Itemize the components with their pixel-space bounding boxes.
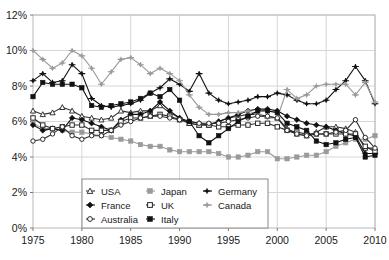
legend-label: Germany: [218, 186, 257, 197]
data-point-marker: [265, 109, 269, 113]
data-point-marker: [129, 119, 133, 123]
data-point-marker: [373, 153, 377, 157]
data-point-marker: [60, 125, 64, 129]
x-tick-label: 2000: [266, 234, 290, 246]
data-point-marker: [129, 139, 133, 143]
data-point-marker: [99, 134, 103, 138]
data-point-marker: [70, 123, 74, 127]
data-point-marker: [168, 148, 172, 152]
data-point-marker: [324, 132, 328, 136]
data-point-marker: [41, 80, 45, 84]
data-point-marker: [246, 114, 250, 118]
data-point-marker: [334, 130, 338, 134]
x-tick-label: 2005: [314, 234, 338, 246]
legend-label: France: [101, 200, 131, 211]
data-point-marker: [60, 82, 64, 86]
data-point-marker: [216, 151, 220, 155]
data-point-marker: [207, 149, 211, 153]
x-tick-label: 2010: [363, 234, 387, 246]
data-point-marker: [197, 121, 201, 125]
data-point-marker: [89, 134, 93, 138]
data-point-marker: [295, 125, 299, 129]
data-point-marker: [148, 144, 152, 148]
y-tick-label: 0%: [12, 222, 27, 234]
data-point-marker: [304, 134, 308, 138]
legend-label: USA: [101, 186, 121, 197]
x-tick-label: 1985: [119, 234, 143, 246]
data-point-marker: [41, 123, 45, 127]
data-point-marker: [324, 149, 328, 153]
data-point-marker: [70, 134, 74, 138]
data-point-marker: [304, 128, 308, 132]
data-point-marker: [256, 121, 260, 125]
data-point-marker: [265, 121, 269, 125]
data-point-marker: [119, 123, 123, 127]
y-tick-label: 4%: [12, 151, 27, 163]
data-point-marker: [226, 119, 230, 123]
data-point-marker: [265, 114, 269, 118]
chart-canvas: 0%2%4%6%8%10%12% 19751980198519901995200…: [0, 0, 389, 260]
data-point-marker: [187, 149, 191, 153]
data-point-marker: [265, 149, 269, 153]
y-axis-ticks: 0%2%4%6%8%10%12%: [6, 9, 33, 234]
data-point-marker: [207, 121, 211, 125]
data-point-marker: [314, 132, 318, 136]
data-point-marker: [129, 100, 133, 104]
x-axis-ticks: 19751980198519901995200020052010: [21, 228, 387, 246]
data-point-marker: [148, 114, 152, 118]
data-point-marker: [363, 135, 367, 139]
data-point-marker: [80, 137, 84, 141]
data-point-marker: [216, 121, 220, 125]
y-tick-label: 2%: [12, 186, 27, 198]
data-point-marker: [285, 128, 289, 132]
data-point-marker: [80, 130, 84, 134]
data-point-marker: [109, 103, 113, 107]
data-point-marker: [246, 123, 250, 127]
data-point-marker: [158, 144, 162, 148]
legend-label: Australia: [101, 214, 139, 225]
legend-label: UK: [161, 200, 175, 211]
data-point-marker: [41, 137, 45, 141]
data-point-marker: [148, 91, 152, 95]
data-point-marker: [80, 86, 84, 90]
data-point-marker: [373, 146, 377, 150]
legend-label: Japan: [161, 186, 187, 197]
data-point-marker: [168, 116, 172, 120]
data-point-marker: [295, 132, 299, 136]
data-point-marker: [177, 118, 181, 122]
data-point-marker: [353, 118, 357, 122]
data-point-marker: [31, 94, 35, 98]
data-point-marker: [304, 153, 308, 157]
data-point-marker: [31, 139, 35, 143]
data-point-marker: [158, 114, 162, 118]
data-point-marker: [31, 116, 35, 120]
data-point-marker: [285, 157, 289, 161]
data-point-marker: [148, 217, 153, 222]
data-point-marker: [119, 137, 123, 141]
data-point-marker: [275, 110, 279, 114]
chart-legend: USAJapanGermanyFranceUKCanadaAustraliaIt…: [82, 179, 268, 228]
data-point-marker: [109, 135, 113, 139]
data-point-marker: [363, 144, 367, 148]
data-point-marker: [256, 149, 260, 153]
data-point-marker: [295, 155, 299, 159]
data-point-marker: [50, 126, 54, 130]
data-point-marker: [343, 137, 347, 141]
legend-label: Italy: [161, 214, 179, 225]
data-point-marker: [285, 121, 289, 125]
data-point-marker: [80, 123, 84, 127]
data-point-marker: [158, 94, 162, 98]
data-point-marker: [324, 142, 328, 146]
data-point-marker: [177, 149, 181, 153]
x-tick-label: 1990: [168, 234, 192, 246]
data-point-marker: [236, 155, 240, 159]
data-point-marker: [353, 135, 357, 139]
data-point-marker: [256, 114, 260, 118]
data-point-marker: [226, 126, 230, 130]
data-point-marker: [187, 119, 191, 123]
data-point-marker: [314, 139, 318, 143]
data-point-marker: [148, 203, 153, 208]
data-point-marker: [343, 128, 347, 132]
data-point-marker: [138, 96, 142, 100]
y-tick-label: 10%: [6, 44, 27, 56]
